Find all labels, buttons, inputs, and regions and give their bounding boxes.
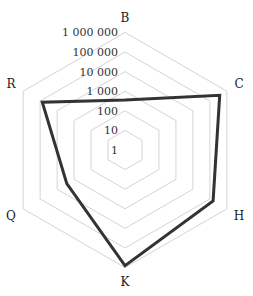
radar-tick-labels: 1101001 00010 000100 0001 000 000 (62, 26, 118, 157)
axis-label-q: Q (6, 209, 16, 223)
grid-ring-4 (57, 72, 193, 229)
tick-label: 10 000 (80, 66, 119, 79)
grid-ring-6 (23, 32, 227, 267)
grid-ring-2 (91, 111, 159, 189)
axis-label-r: R (6, 77, 16, 91)
axis-label-b: B (121, 11, 130, 25)
axis-label-c: C (234, 77, 243, 91)
axis-label-k: K (121, 275, 131, 289)
grid-ring-3 (74, 91, 176, 209)
tick-label: 100 000 (73, 46, 119, 59)
tick-label: 1 000 (87, 85, 119, 98)
radar-chart: 1101001 00010 000100 0001 000 000 BCHKQR (0, 0, 253, 296)
radar-axis-labels: BCHKQR (6, 11, 244, 288)
tick-label: 1 000 000 (62, 26, 118, 39)
radar-grid (23, 32, 227, 267)
tick-label: 1 (111, 144, 118, 157)
grid-ring-5 (40, 52, 210, 248)
tick-label: 10 (104, 124, 118, 137)
axis-label-h: H (234, 209, 244, 223)
tick-label: 100 (97, 105, 118, 118)
